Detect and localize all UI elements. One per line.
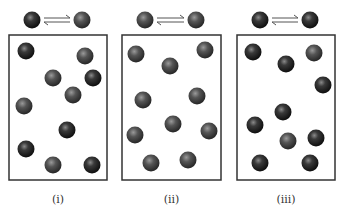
dark-molecule-icon bbox=[278, 56, 295, 73]
equilibrium-arrows-icon bbox=[44, 15, 70, 25]
gray-molecule-icon bbox=[143, 155, 160, 172]
equilibrium-diagram: (i)(ii)(iii) bbox=[0, 0, 345, 216]
gray-molecule-icon bbox=[127, 127, 144, 144]
dark-molecule-icon bbox=[18, 43, 35, 60]
panel-3: (iii) bbox=[237, 12, 335, 207]
product-sphere-icon bbox=[188, 12, 205, 29]
dark-molecule-icon bbox=[59, 122, 76, 139]
gray-molecule-icon bbox=[45, 157, 62, 174]
gray-molecule-icon bbox=[128, 46, 145, 63]
product-sphere-icon bbox=[74, 12, 91, 29]
dark-molecule-icon bbox=[85, 70, 102, 87]
dark-molecule-icon bbox=[84, 157, 101, 174]
panel-2: (ii) bbox=[122, 12, 221, 207]
dark-molecule-icon bbox=[245, 44, 262, 61]
gray-molecule-icon bbox=[197, 42, 214, 59]
product-sphere-icon bbox=[302, 12, 319, 29]
gray-molecule-icon bbox=[201, 123, 218, 140]
dark-molecule-icon bbox=[302, 155, 319, 172]
panel-label: (ii) bbox=[164, 193, 180, 206]
gray-molecule-icon bbox=[65, 87, 82, 104]
equilibrium-arrows-icon bbox=[157, 15, 184, 25]
dark-molecule-icon bbox=[308, 130, 325, 147]
dark-molecule-icon bbox=[315, 77, 332, 94]
dark-molecule-icon bbox=[18, 141, 35, 158]
gray-molecule-icon bbox=[306, 45, 323, 62]
gray-molecule-icon bbox=[180, 152, 197, 169]
dark-molecule-icon bbox=[252, 155, 269, 172]
reactant-sphere-icon bbox=[252, 12, 269, 29]
gray-molecule-icon bbox=[162, 58, 179, 75]
dark-molecule-icon bbox=[275, 104, 292, 121]
gray-molecule-icon bbox=[135, 92, 152, 109]
gray-molecule-icon bbox=[77, 48, 94, 65]
gray-molecule-icon bbox=[280, 133, 297, 150]
equilibrium-arrows-icon bbox=[272, 15, 298, 25]
reactant-sphere-icon bbox=[137, 12, 154, 29]
gray-molecule-icon bbox=[165, 116, 182, 133]
panel-label: (iii) bbox=[276, 193, 295, 206]
dark-molecule-icon bbox=[247, 117, 264, 134]
reactant-sphere-icon bbox=[24, 12, 41, 29]
gray-molecule-icon bbox=[45, 70, 62, 87]
gray-molecule-icon bbox=[189, 88, 206, 105]
panel-label: (i) bbox=[52, 193, 64, 206]
gray-molecule-icon bbox=[16, 98, 33, 115]
panel-1: (i) bbox=[9, 12, 107, 207]
